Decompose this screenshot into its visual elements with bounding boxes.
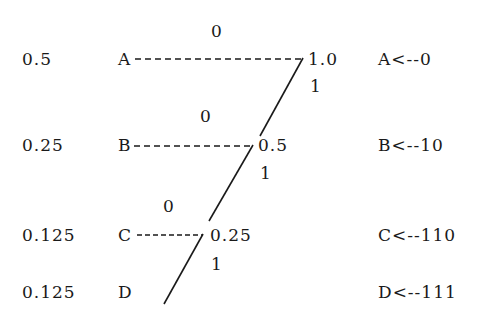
code-b: B<--10: [378, 137, 444, 154]
code-a: A<--0: [378, 51, 432, 68]
symbol-c: C: [118, 227, 132, 244]
branch-label-zero-c: 0: [163, 198, 175, 215]
branch-label-one-a: 1: [310, 78, 322, 95]
probability-d: 0.125: [22, 284, 76, 301]
node-value-0-25: 0.25: [210, 227, 252, 244]
probability-b: 0.25: [22, 137, 64, 154]
code-d: D<--111: [378, 284, 457, 301]
probability-c: 0.125: [22, 227, 76, 244]
node-value-1-0: 1.0: [308, 51, 338, 68]
symbol-b: B: [118, 137, 132, 154]
symbol-a: A: [118, 51, 131, 68]
code-c: C<--110: [378, 227, 456, 244]
branch-label-one-b: 1: [260, 165, 272, 182]
branch-label-zero-b: 0: [200, 108, 212, 125]
edge-a-one: [260, 58, 303, 136]
branch-label-zero-a: 0: [211, 23, 223, 40]
edge-b-one: [209, 145, 253, 221]
node-value-0-5: 0.5: [258, 137, 288, 154]
edge-c-one: [164, 234, 203, 304]
branch-label-one-c: 1: [211, 256, 223, 273]
probability-a: 0.5: [22, 51, 52, 68]
symbol-d: D: [118, 284, 133, 301]
